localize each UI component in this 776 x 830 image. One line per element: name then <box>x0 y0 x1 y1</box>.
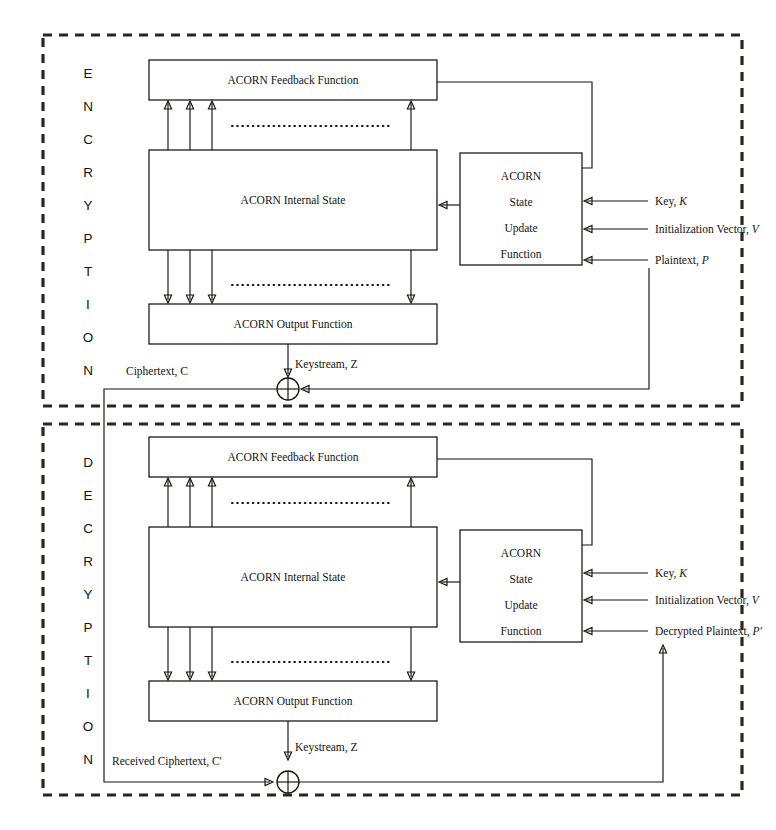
decryption-section: D E C R Y P T I O N ACORN Feedback Funct… <box>43 424 762 795</box>
enc-input-arrows <box>584 197 648 263</box>
enc-feedback-function-label: ACORN Feedback Function <box>228 74 359 86</box>
enc-input-key-label: Key, K <box>655 195 688 208</box>
dec-letter-7: I <box>86 686 90 701</box>
dec-letter-8: O <box>83 719 94 734</box>
acorn-cipher-diagram: E N C R Y P T I O N ACORN Feedback Funct… <box>0 0 776 830</box>
enc-input-plaintext-label: Plaintext, P <box>655 254 709 267</box>
enc-letter-5: P <box>83 231 92 246</box>
dec-output-function-label: ACORN Output Function <box>234 695 353 708</box>
dec-xor-operator <box>277 771 299 793</box>
enc-state-update-line-1: State <box>510 196 533 208</box>
enc-input-iv-label: Initialization Vector, V <box>655 223 761 236</box>
dec-state-update-line-0: ACORN <box>501 547 542 559</box>
dec-letter-4: Y <box>83 587 92 602</box>
dec-keystream-label: Keystream, Z <box>295 741 358 754</box>
enc-letter-8: O <box>83 330 94 345</box>
encryption-vertical-title: E N C R Y P T I O N <box>83 66 94 378</box>
enc-state-to-output-arrows <box>164 250 414 303</box>
enc-letter-1: N <box>83 99 93 114</box>
dec-input-decrypted-plaintext-label: Decrypted Plaintext, P' <box>655 625 762 638</box>
encryption-section: E N C R Y P T I O N ACORN Feedback Funct… <box>43 35 761 782</box>
enc-xor-operator <box>277 378 299 400</box>
enc-letter-9: N <box>83 363 93 378</box>
dec-letter-9: N <box>83 752 93 767</box>
dec-state-to-output-arrows <box>164 627 414 680</box>
dec-feedback-function-label: ACORN Feedback Function <box>228 451 359 463</box>
dec-letter-3: R <box>83 554 93 569</box>
dec-input-arrows <box>584 569 648 634</box>
dec-state-update-line-3: Function <box>501 625 542 637</box>
enc-letter-3: R <box>83 165 93 180</box>
dec-letter-6: T <box>84 653 92 668</box>
dec-input-key-label: Key, K <box>655 567 688 580</box>
dec-letter-5: P <box>83 620 92 635</box>
enc-output-function-label: ACORN Output Function <box>234 318 353 331</box>
dec-internal-state-label: ACORN Internal State <box>241 571 346 583</box>
enc-keystream-label: Keystream, Z <box>295 358 358 371</box>
enc-state-update-line-3: Function <box>501 248 542 260</box>
enc-state-update-line-2: Update <box>504 222 537 235</box>
enc-letter-2: C <box>83 132 93 147</box>
dec-state-update-line-1: State <box>510 573 533 585</box>
enc-ciphertext-label: Ciphertext, C <box>126 365 188 378</box>
dec-letter-2: C <box>83 521 93 536</box>
decryption-vertical-title: D E C R Y P T I O N <box>83 455 94 767</box>
enc-letter-7: I <box>86 297 90 312</box>
enc-internal-state-label: ACORN Internal State <box>241 194 346 206</box>
enc-letter-4: Y <box>83 198 92 213</box>
enc-state-update-line-0: ACORN <box>501 170 542 182</box>
dec-received-ciphertext-label: Received Ciphertext, C' <box>112 755 222 768</box>
enc-letter-6: T <box>84 264 92 279</box>
dec-input-iv-label: Initialization Vector, V <box>655 594 761 607</box>
dec-letter-0: D <box>83 455 93 470</box>
dec-letter-1: E <box>83 488 92 503</box>
diagram-canvas: E N C R Y P T I O N ACORN Feedback Funct… <box>0 0 776 830</box>
enc-letter-0: E <box>83 66 92 81</box>
dec-state-update-line-2: Update <box>504 599 537 612</box>
